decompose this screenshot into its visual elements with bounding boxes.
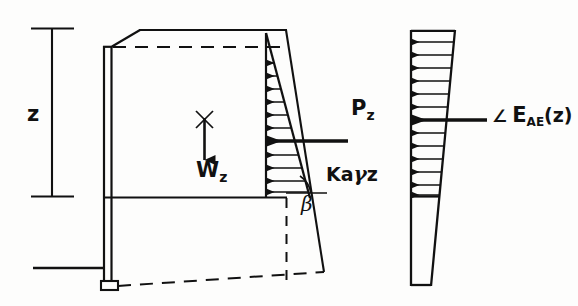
seismic-subscript-text: AE <box>527 116 544 128</box>
lambda-angle-symbol-text: ∠ <box>492 106 507 126</box>
right-pressure-diagram <box>411 30 487 286</box>
wedge-weight-label: Wz <box>196 160 227 181</box>
wall-footing <box>101 281 118 290</box>
seismic-resultant-label: ∠EAE(z) <box>492 105 573 126</box>
depth-variable-text: z <box>367 163 378 185</box>
wedge-bottom-dashed-line <box>118 272 324 286</box>
backfill-slope-line <box>112 30 140 47</box>
unit-weight-gamma-text: γ <box>354 162 367 186</box>
seismic-argument-text: (z) <box>544 104 572 126</box>
diagram-canvas <box>0 0 578 306</box>
failure-plane-line <box>286 30 324 272</box>
resultant-subscript-text: z <box>366 108 374 122</box>
resultant-pressure-label: Pz <box>351 98 375 119</box>
earth-pressure-figure: z Wz Pz Kaγz β ∠EAE(z) <box>0 0 578 306</box>
weight-subscript-text: z <box>219 170 227 184</box>
lateral-pressure-expression-label: Kaγz <box>326 164 378 184</box>
weight-symbol-text: W <box>196 158 219 182</box>
ground-surface-group <box>112 30 287 47</box>
failure-wedge-group <box>118 30 324 286</box>
centroid-marker-group <box>196 111 213 160</box>
depth-dimension-label: z <box>27 104 39 125</box>
ka-coefficient-text: Ka <box>326 163 354 185</box>
slope-angle-label: β <box>301 194 313 214</box>
retaining-wall-group <box>101 46 118 290</box>
wall-base-level-group <box>33 198 287 269</box>
seismic-symbol-text: E <box>512 103 526 127</box>
resultant-symbol-text: P <box>351 96 366 120</box>
